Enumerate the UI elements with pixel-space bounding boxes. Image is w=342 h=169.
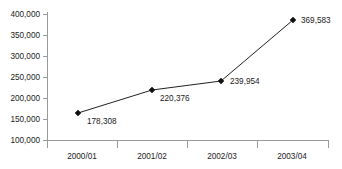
y-tick-label: 300,000 (10, 52, 40, 61)
line-chart: 400,000 350,000 300,000 250,000 200,000 … (0, 0, 342, 169)
y-tick-label: 200,000 (10, 94, 40, 103)
data-point-label: 239,954 (230, 77, 260, 86)
y-tick-label: 100,000 (10, 136, 40, 145)
y-tick-label: 250,000 (10, 73, 40, 82)
x-category-label: 2003/04 (277, 152, 307, 161)
chart-background (0, 0, 342, 169)
x-category-label: 2001/02 (137, 152, 167, 161)
data-point-label: 178,308 (87, 117, 117, 126)
y-tick-label: 400,000 (10, 10, 40, 19)
x-category-label: 2002/03 (207, 152, 237, 161)
data-point-label: 220,376 (160, 94, 190, 103)
y-tick-label: 150,000 (10, 115, 40, 124)
x-category-label: 2000/01 (67, 152, 97, 161)
chart-canvas: 400,000 350,000 300,000 250,000 200,000 … (0, 0, 342, 169)
y-tick-label: 350,000 (10, 31, 40, 40)
data-point-label: 369,583 (301, 16, 331, 25)
